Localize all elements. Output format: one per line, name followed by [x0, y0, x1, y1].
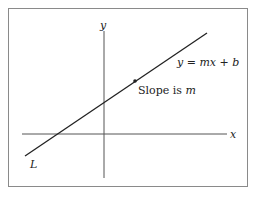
line-name-label: L	[29, 158, 37, 171]
y-axis-label: y	[99, 19, 107, 32]
equation-label: y = mx + b	[176, 56, 239, 69]
slope-annotation: Slope is m	[138, 84, 196, 97]
slope-point	[133, 79, 137, 83]
line-diagram: y x L y = mx + b Slope is m	[0, 0, 258, 200]
x-axis-label: x	[230, 128, 237, 141]
